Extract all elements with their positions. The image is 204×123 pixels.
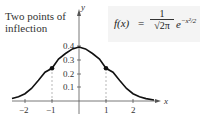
inflection-point-right (104, 66, 109, 71)
svg-text:0.2: 0.2 (63, 69, 74, 79)
annotation-line-1: Two points of (5, 10, 66, 22)
inflection-point-left (50, 66, 55, 71)
formula-fraction: 1 √2π (150, 8, 174, 32)
y-axis-label: y (80, 2, 85, 12)
formula-box: f(x) = 1 √2π e−x²/2 (108, 6, 200, 42)
svg-text:0.3: 0.3 (63, 55, 75, 65)
inflection-annotation: Two points of inflection (5, 10, 66, 34)
svg-text:2: 2 (131, 105, 136, 115)
bell-curve (12, 47, 154, 100)
formula-exponential: e−x²/2 (176, 17, 196, 30)
x-axis-arrow-icon (155, 99, 161, 103)
annotation-line-2: inflection (5, 22, 66, 34)
formula-denominator: √2π (150, 20, 174, 32)
formula-lhs: f(x) (114, 17, 129, 29)
svg-text:−1: −1 (46, 105, 56, 115)
x-axis-label: x (163, 96, 168, 106)
formula-numerator: 1 (150, 8, 174, 20)
formula-equals: = (138, 17, 144, 29)
formula-exp-power: −x²/2 (181, 17, 196, 25)
svg-text:−2: −2 (19, 105, 29, 115)
svg-text:0.1: 0.1 (63, 82, 74, 92)
svg-text:1: 1 (104, 105, 109, 115)
